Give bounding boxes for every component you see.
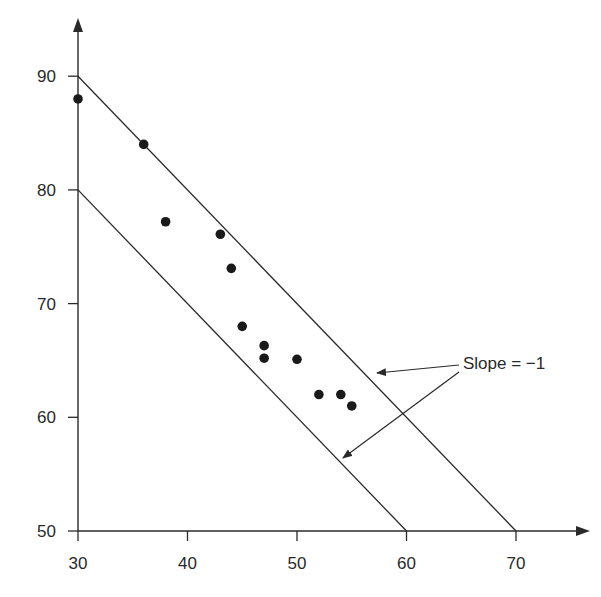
data-point [73, 94, 83, 104]
lower-boundary-line [78, 190, 407, 531]
y-tick-label: 80 [37, 181, 56, 200]
y-tick-label: 70 [37, 295, 56, 314]
data-point [347, 401, 357, 411]
x-tick-label: 70 [507, 554, 526, 573]
data-points [73, 94, 356, 411]
y-axis-arrow-icon [73, 18, 83, 32]
data-point [216, 229, 226, 239]
data-point [139, 140, 149, 150]
y-tick-label: 50 [37, 522, 56, 541]
annotation-arrow-upper [377, 365, 459, 373]
x-tick-label: 30 [69, 554, 88, 573]
annotation-arrow-lower [343, 372, 459, 458]
scatter-chart: 5060708090 3040506070 Slope = −1 [0, 0, 601, 597]
data-point [336, 390, 346, 400]
data-point [259, 353, 269, 363]
y-tick-label: 60 [37, 408, 56, 427]
data-point [237, 322, 247, 332]
data-point [227, 264, 237, 274]
data-point [292, 355, 302, 365]
x-tick-label: 60 [397, 554, 416, 573]
data-point [259, 341, 269, 351]
x-ticks: 3040506070 [69, 531, 526, 573]
x-axis-arrow-icon [576, 526, 590, 536]
y-ticks: 5060708090 [37, 67, 78, 541]
data-point [314, 390, 324, 400]
x-tick-label: 50 [288, 554, 307, 573]
data-point [161, 217, 171, 227]
x-tick-label: 40 [178, 554, 197, 573]
axes [78, 28, 580, 531]
y-tick-label: 90 [37, 67, 56, 86]
slope-annotation: Slope = −1 [463, 354, 545, 373]
